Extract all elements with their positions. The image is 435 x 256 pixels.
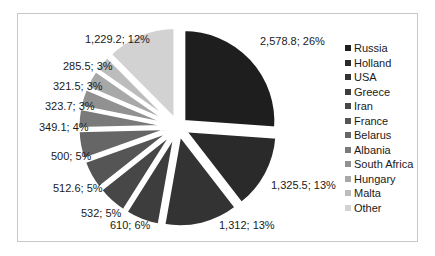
legend-swatch-icon [345,176,351,182]
data-label: 500; 5% [51,150,91,162]
legend-item-france: France [345,114,413,129]
legend-label: France [354,115,388,127]
legend-item-south-africa: South Africa [345,157,413,172]
legend-label: South Africa [354,158,413,170]
legend-item-iran: Iran [345,99,413,114]
legend-item-russia: Russia [345,41,413,56]
legend-item-albania: Albania [345,143,413,158]
legend-item-malta: Malta [345,186,413,201]
legend-swatch-icon [345,103,351,109]
data-label: 610; 6% [110,219,150,231]
legend-label: USA [354,71,377,83]
legend-item-belarus: Belarus [345,128,413,143]
legend-label: Belarus [354,129,391,141]
data-label: 1,325.5; 13% [271,179,336,191]
legend-swatch-icon [345,118,351,124]
data-label: 349.1; 4% [39,121,89,133]
legend-item-usa: USA [345,70,413,85]
legend-swatch-icon [345,205,351,211]
legend-item-greece: Greece [345,85,413,100]
legend-label: Holland [354,57,391,69]
data-label: 1,312; 13% [219,219,275,231]
legend-item-holland: Holland [345,56,413,71]
data-label: 532; 5% [81,207,121,219]
legend-label: Russia [354,42,388,54]
legend-item-other: Other [345,201,413,216]
data-label: 1,229.2; 12% [85,33,150,45]
legend-swatch-icon [345,74,351,80]
legend-item-hungary: Hungary [345,172,413,187]
legend-swatch-icon [345,132,351,138]
legend-label: Albania [354,144,391,156]
legend-swatch-icon [345,190,351,196]
legend: Russia Holland USA Greece Iran France Be… [345,41,413,215]
data-label: 323.7; 3% [45,100,95,112]
legend-label: Greece [354,86,390,98]
legend-swatch-icon [345,147,351,153]
legend-label: Other [354,202,382,214]
legend-swatch-icon [345,89,351,95]
data-label: 512.6; 5% [53,182,103,194]
data-label: 285.5; 3% [63,60,113,72]
legend-label: Hungary [354,173,396,185]
legend-label: Iran [354,100,373,112]
data-label: 2,578.8; 26% [260,35,325,47]
legend-swatch-icon [345,161,351,167]
legend-swatch-icon [345,45,351,51]
data-label: 321.5; 3% [53,80,103,92]
legend-swatch-icon [345,60,351,66]
legend-label: Malta [354,187,381,199]
